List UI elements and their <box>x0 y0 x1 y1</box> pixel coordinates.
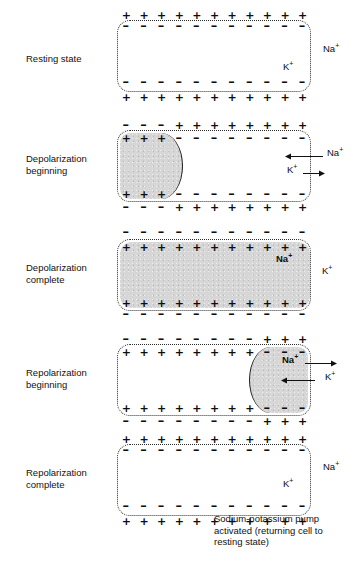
positive-charge-symbol: + <box>263 335 271 344</box>
negative-charge-symbol: – <box>210 229 218 235</box>
ion-symbol: Na <box>323 461 335 472</box>
positive-charge-symbol: + <box>280 11 288 20</box>
positive-charge-symbol: + <box>280 93 288 102</box>
negative-charge-symbol: – <box>157 336 165 342</box>
positive-charge-symbol: + <box>210 93 218 102</box>
ion-symbol: Na <box>282 354 294 365</box>
negative-charge-symbol: – <box>175 311 183 317</box>
ion-label-k-resting-state: K+ <box>283 62 293 72</box>
negative-charge-symbol: – <box>157 204 165 210</box>
positive-charge-symbol: + <box>245 203 253 212</box>
outer-bottom-charge-row: ––––––––+++ <box>117 417 311 426</box>
positive-charge-symbol: + <box>263 93 271 102</box>
positive-charge-symbol: + <box>263 203 271 212</box>
ion-symbol: Na <box>327 147 339 158</box>
positive-charge-symbol: + <box>298 417 306 426</box>
positive-charge-symbol: + <box>298 121 306 130</box>
outer-top-charge-row: +++++++++++ <box>117 11 311 20</box>
negative-charge-symbol: – <box>245 418 253 424</box>
negative-charge-symbol: – <box>157 229 165 235</box>
positive-charge-symbol: + <box>298 93 306 102</box>
cell-depolarization-beginning: –––+++++++++++––––––––+++–––––––––––++++… <box>117 130 311 202</box>
positive-charge-symbol: + <box>175 11 183 20</box>
negative-charge-symbol: – <box>228 311 236 317</box>
negative-charge-symbol: – <box>122 229 130 235</box>
ion-label-k-depolarization-beginning: K+ <box>287 165 297 175</box>
outer-bottom-charge-row: ––––––––––– <box>117 312 311 318</box>
negative-charge-symbol: – <box>139 311 147 317</box>
outer-top-charge-row: –––++++++++ <box>117 121 311 130</box>
positive-charge-symbol: + <box>298 11 306 20</box>
negative-charge-symbol: – <box>157 418 165 424</box>
negative-charge-symbol: – <box>157 122 165 128</box>
positive-charge-symbol: + <box>210 203 218 212</box>
positive-charge-symbol: + <box>245 93 253 102</box>
negative-charge-symbol: – <box>192 418 200 424</box>
ion-charge-superscript: + <box>328 264 332 271</box>
positive-charge-symbol: + <box>139 517 147 526</box>
stage-label-resting-state: Resting state <box>26 53 114 65</box>
positive-charge-symbol: + <box>175 121 183 130</box>
positive-charge-symbol: + <box>192 203 200 212</box>
positive-charge-symbol: + <box>122 11 130 20</box>
ion-symbol: Na <box>276 253 288 264</box>
negative-charge-symbol: – <box>298 229 306 235</box>
positive-charge-symbol: + <box>298 335 306 344</box>
negative-charge-symbol: – <box>122 418 130 424</box>
depolarized-region <box>120 242 310 308</box>
negative-charge-symbol: – <box>192 336 200 342</box>
positive-charge-symbol: + <box>122 435 130 444</box>
negative-charge-symbol: – <box>280 311 288 317</box>
negative-charge-symbol: – <box>175 229 183 235</box>
negative-charge-symbol: – <box>263 229 271 235</box>
positive-charge-symbol: + <box>210 121 218 130</box>
positive-charge-symbol: + <box>157 93 165 102</box>
positive-charge-symbol: + <box>245 11 253 20</box>
positive-charge-symbol: + <box>298 435 306 444</box>
positive-charge-symbol: + <box>280 435 288 444</box>
outer-top-charge-row: ––––––––––– <box>117 230 311 236</box>
positive-charge-symbol: + <box>175 203 183 212</box>
action-potential-diagram: Resting state+++++++++++––––––––––––––––… <box>0 0 353 568</box>
positive-charge-symbol: + <box>175 435 183 444</box>
ion-charge-superscript: + <box>331 370 335 377</box>
positive-charge-symbol: + <box>210 11 218 20</box>
positive-charge-symbol: + <box>263 121 271 130</box>
positive-charge-symbol: + <box>245 121 253 130</box>
positive-charge-symbol: + <box>280 335 288 344</box>
ion-charge-superscript: + <box>339 146 343 153</box>
positive-charge-symbol: + <box>280 417 288 426</box>
ion-charge-superscript: + <box>289 477 293 484</box>
negative-charge-symbol: – <box>245 336 253 342</box>
cell-resting-state: +++++++++++––––––––––––––––––––––+++++++… <box>117 20 311 92</box>
positive-charge-symbol: + <box>263 435 271 444</box>
positive-charge-symbol: + <box>298 203 306 212</box>
negative-charge-symbol: – <box>228 229 236 235</box>
negative-charge-symbol: – <box>175 336 183 342</box>
ion-label-na-repolarization-beginning: Na+ <box>282 355 298 365</box>
ion-charge-superscript: + <box>293 163 297 170</box>
positive-charge-symbol: + <box>139 11 147 20</box>
positive-charge-symbol: + <box>139 93 147 102</box>
negative-charge-symbol: – <box>228 418 236 424</box>
positive-charge-symbol: + <box>228 435 236 444</box>
positive-charge-symbol: + <box>228 121 236 130</box>
stage-label-repolarization-complete: Repolarization complete <box>26 467 114 490</box>
depolarized-region <box>249 347 308 413</box>
negative-charge-symbol: – <box>122 204 130 210</box>
ion-symbol: Na <box>323 43 335 54</box>
positive-charge-symbol: + <box>210 435 218 444</box>
cell-membrane-outline <box>117 130 311 202</box>
positive-charge-symbol: + <box>122 517 130 526</box>
positive-charge-symbol: + <box>192 93 200 102</box>
negative-charge-symbol: – <box>139 204 147 210</box>
ion-label-na-depolarization-beginning: Na+ <box>327 148 343 158</box>
negative-charge-symbol: – <box>192 311 200 317</box>
ion-label-k-repolarization-beginning: K+ <box>325 372 335 382</box>
ion-charge-superscript: + <box>335 42 339 49</box>
ion-label-k-depolarization-complete: K+ <box>322 266 332 276</box>
cell-membrane-outline <box>117 20 311 92</box>
positive-charge-symbol: + <box>263 417 271 426</box>
negative-charge-symbol: – <box>175 418 183 424</box>
positive-charge-symbol: + <box>263 11 271 20</box>
